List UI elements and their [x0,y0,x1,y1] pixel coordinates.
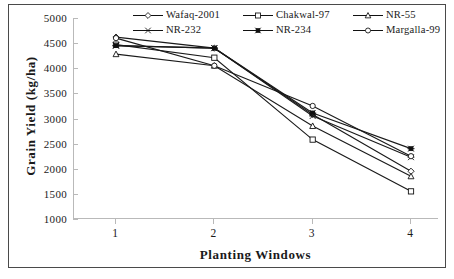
marker-square [408,189,413,194]
legend-marker-glyph [142,25,154,36]
series-line-nr-55 [116,54,411,176]
x-tick-label: 4 [407,227,413,239]
legend-marker-glyph [252,25,264,36]
marker-circle [113,35,118,40]
marker-circle [212,63,217,68]
marker-circle [365,27,370,32]
data-series-layer [74,18,439,219]
marker-square [212,55,217,60]
marker-square [255,12,260,17]
marker-diamond [145,12,151,18]
marker-star-filled [211,45,218,51]
y-tick-label: 4500 [44,37,67,49]
series-line-chakwal-97 [116,45,411,192]
x-tick-label: 3 [309,227,315,239]
legend-item-margalla-99[interactable]: Margalla-99 [353,23,436,36]
marker-triangle [365,12,371,17]
y-tick-label: 2500 [44,138,67,150]
legend-item-chakwal-97[interactable]: Chakwal-97 [243,8,353,21]
legend-marker-circle-icon [353,24,383,36]
marker-square [310,137,315,142]
legend-marker-glyph [362,25,374,36]
x-tick-label: 1 [112,227,118,239]
legend-item-nr-55[interactable]: NR-55 [353,8,436,21]
marker-star-filled [407,146,414,152]
x-tick-label: 2 [210,227,216,239]
figure: 500045004000350030002500200015001000 Gra… [0,0,454,279]
y-tick-label: 2000 [44,163,67,175]
legend-marker-cross-icon [133,24,163,36]
legend-label: NR-234 [276,23,311,36]
y-tick-label: 3500 [44,87,67,99]
legend-label: NR-55 [386,8,416,21]
legend-marker-diamond-icon [133,9,163,21]
marker-star-filled [112,43,119,49]
legend-item-nr-234[interactable]: NR-234 [243,23,353,36]
marker-cross [145,27,151,33]
y-tick-label: 1500 [44,188,67,200]
legend-marker-glyph [142,10,154,21]
legend-item-wafaq-2001[interactable]: Wafaq-2001 [133,8,243,21]
legend-marker-glyph [362,10,374,21]
series-line-nr-232 [116,46,411,158]
marker-star-filled [309,110,316,116]
y-axis-title: Grain Yield (kg/ha) [23,21,39,211]
legend-label: Margalla-99 [386,23,440,36]
legend-label: Chakwal-97 [276,8,330,21]
x-axis-tick-labels: 1234 [73,219,438,245]
legend-marker-star-filled-icon [243,24,273,36]
legend-label: Wafaq-2001 [166,8,220,21]
x-axis-title: Planting Windows [73,247,438,263]
y-tick-label: 1000 [44,213,67,225]
marker-triangle [310,123,316,129]
legend: Wafaq-2001Chakwal-97NR-55NR-232NR-234Mar… [133,8,436,38]
marker-star-filled [255,27,262,33]
legend-item-nr-232[interactable]: NR-232 [133,23,243,36]
series-line-wafaq-2001 [116,37,411,171]
legend-marker-square-icon [243,9,273,21]
marker-triangle [408,173,414,179]
y-tick-label: 4000 [44,62,67,74]
legend-label: NR-232 [166,23,201,36]
plot-area [73,18,438,219]
series-container [74,18,438,218]
marker-circle [310,103,315,108]
legend-marker-triangle-icon [353,9,383,21]
legend-marker-glyph [252,10,264,21]
y-tick-label: 3000 [44,113,67,125]
marker-circle [408,154,413,159]
y-tick-label: 5000 [44,12,67,24]
